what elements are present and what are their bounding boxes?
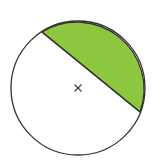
circle-segment-diagram [0,0,159,161]
